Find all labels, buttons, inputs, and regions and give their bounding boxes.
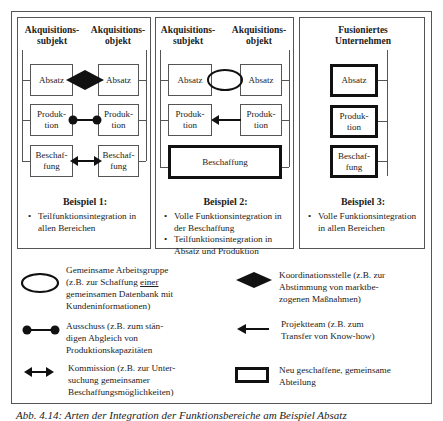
spine-tick [22,120,30,121]
spine-tick [138,80,146,81]
box-absatz: Absatz [330,64,378,97]
header-acquiring-subject: Akquisitions- subjekt [20,25,84,47]
box-beschaffung-right: Beschaf- fung [98,145,139,177]
spine-left [22,50,23,161]
box-beschaffung-left: Beschaf- fung [30,145,73,177]
spine-tick [378,161,387,162]
example-3-title: Beispiel 3: [300,196,426,207]
spine-tick [281,167,289,168]
bullet: Teilfunktionsintegration in Absatz und P… [164,234,292,257]
spine-tick [160,120,168,121]
spine-right [146,50,147,161]
spine-tick [138,120,146,121]
double-arrow-icon [70,155,102,167]
ellipse-icon [206,68,244,92]
panel-example-2: Akquisitions- subjekt Akquisitions- obje… [155,17,294,249]
box-produktion-left: Produk- tion [30,104,73,136]
left-arrow-icon [237,323,269,335]
spine-tick [22,80,30,81]
header-merged-company: Fusioniertes Unternehmen [300,25,426,47]
spine-tick [160,167,168,168]
spine-tick [22,161,30,162]
spine-right [387,50,388,176]
box-beschaffung: Beschaf- fung [330,145,378,178]
legend-kommission: Kommission (z.B. zur Unter- suchung geme… [68,362,218,398]
thick-box-icon [235,367,269,383]
figure-caption: Abb. 4.14: Arten der Integration der Fun… [16,409,347,421]
box-produktion-right: Produk- tion [98,104,139,136]
legend-neue-abteilung: Neu geschaffene, gemeinsame Abteilung [279,364,429,388]
diamond-icon [236,272,272,288]
dumbbell-icon [22,324,60,336]
box-produktion-left: Produk- tion [168,104,212,136]
spine-right [289,50,290,167]
spine-tick [281,80,289,81]
example-1-bullets: Teilfunktionsintegration in allen Bereic… [28,211,146,234]
bullet: Volle Funktionsintegration in der Bescha… [164,211,292,234]
panel-example-1: Akquisitions- subjekt Akquisitions- obje… [17,17,151,249]
example-3-bullets: Volle Funktionsintegration in allen Bere… [308,211,424,234]
example-2-bullets: Volle Funktionsintegration in der Bescha… [164,211,292,257]
left-arrow-icon [211,114,241,126]
legend-ausschuss: Ausschuss (z.B. zum stän- digen Abgleich… [66,320,206,356]
spine-tick [160,80,168,81]
panel-example-3: Fusioniertes Unternehmen Absatz Produk- … [299,17,425,249]
box-beschaffung-joint: Beschaffung [168,145,282,179]
bullet: Teilfunktionsintegration in allen Bereic… [28,211,146,234]
legend-koordinationsstelle: Koordinationsstelle (z.B. zur Abstimmung… [279,269,429,305]
legend-projektteam: Projektteam (z.B. zum Transfer von Know-… [281,318,421,342]
spine-tick [281,120,289,121]
box-produktion: Produk- tion [330,105,378,138]
box-absatz-right: Absatz [98,64,139,96]
diamond-icon [66,70,104,90]
box-absatz-right: Absatz [240,64,282,96]
dumbbell-icon [68,114,102,126]
ellipse-icon [20,272,60,294]
spine-tick [378,121,387,122]
example-1-title: Beispiel 1: [18,196,152,207]
spine-tick [138,161,146,162]
legend-arbeitsgruppe: Gemeinsame Arbeitsgruppe (z.B. zur Schaf… [66,264,206,312]
bullet: Volle Funktionsintegration in allen Bere… [308,211,424,234]
spine-left [160,50,161,167]
header-acquired-object: Akquisitions- objekt [86,25,150,47]
spine-tick [378,80,387,81]
header-acquiring-subject: Akquisitions- subjekt [156,25,220,47]
box-produktion-right: Produk- tion [240,104,282,136]
header-acquired-object: Akquisitions- objekt [226,25,292,47]
double-arrow-icon [24,366,54,378]
example-2-title: Beispiel 2: [156,196,295,207]
